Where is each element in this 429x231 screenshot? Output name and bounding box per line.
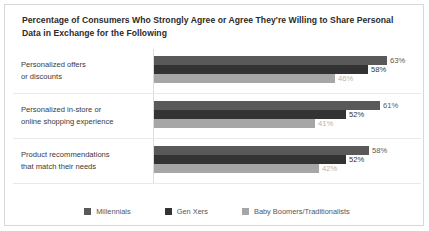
bar-row-genxers: 52% [154,110,421,119]
legend-item-boomers: Baby Boomers/Traditionalists [242,207,350,216]
legend-item-millennials: Millennials [84,207,131,216]
bar-stack: 63% 58% 46% [154,56,421,83]
bar-boomers [154,74,335,83]
category-label-line2: online shopping experience [21,116,149,128]
bar-value-genxers: 58% [371,64,386,75]
category-label-line1: Personalized offers [21,59,149,71]
bar-stack: 58% 52% 42% [154,146,421,173]
bar-row-millennials: 61% [154,101,421,110]
bar-boomers [154,164,319,173]
category-label-line1: Personalized in-store or [21,104,149,116]
bar-row-boomers: 41% [154,119,421,128]
category-label-line2: or discounts [21,71,149,83]
bar-genxers [154,65,368,74]
bar-group: Personalized in-store or online shopping… [13,94,421,139]
bar-genxers [154,155,346,164]
bar-value-genxers: 52% [349,154,364,165]
bar-group: Product recommendations that match their… [13,139,421,184]
bar-row-millennials: 58% [154,146,421,155]
category-label: Personalized offers or discounts [21,59,149,82]
legend-swatch-genxers [165,208,172,215]
bar-value-millennials: 63% [390,55,405,66]
bar-value-boomers: 42% [322,163,337,174]
bar-row-genxers: 58% [154,65,421,74]
bar-boomers [154,119,315,128]
bar-value-genxers: 52% [349,109,364,120]
category-label-line2: that match their needs [21,161,149,173]
bar-value-millennials: 58% [372,145,387,156]
category-label: Product recommendations that match their… [21,149,149,172]
legend-label-boomers: Baby Boomers/Traditionalists [254,207,350,216]
bar-value-boomers: 41% [318,118,333,129]
bar-stack: 61% 52% 41% [154,101,421,128]
bar-value-boomers: 46% [338,73,353,84]
chart-plot-area: Personalized offers or discounts 63% 58%… [13,49,421,197]
bar-row-boomers: 46% [154,74,421,83]
legend-item-genxers: Gen Xers [165,207,208,216]
chart-card: Percentage of Consumers Who Strongly Agr… [4,4,424,226]
bar-millennials [154,56,387,65]
chart-legend: Millennials Gen Xers Baby Boomers/Tradit… [13,203,421,219]
chart-title: Percentage of Consumers Who Strongly Agr… [22,14,407,39]
bar-row-boomers: 42% [154,164,421,173]
bar-group: Personalized offers or discounts 63% 58%… [13,49,421,94]
bar-millennials [154,146,369,155]
legend-label-millennials: Millennials [96,207,131,216]
category-label: Personalized in-store or online shopping… [21,104,149,127]
legend-swatch-boomers [242,208,249,215]
bar-value-millennials: 61% [383,100,398,111]
bar-millennials [154,101,380,110]
legend-swatch-millennials [84,208,91,215]
category-label-line1: Product recommendations [21,149,149,161]
bar-row-genxers: 52% [154,155,421,164]
legend-label-genxers: Gen Xers [177,207,208,216]
